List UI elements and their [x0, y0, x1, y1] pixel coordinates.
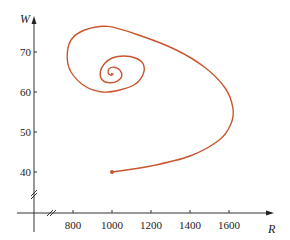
x-tick-label: 1400 [179, 219, 202, 231]
x-axis-arrow-icon [266, 211, 274, 216]
x-tick-label: 800 [65, 219, 82, 231]
y-tick-label: 50 [20, 126, 32, 138]
y-tick-label: 70 [20, 46, 32, 58]
x-tick-label: 1000 [101, 219, 124, 231]
y-tick-label: 40 [20, 166, 32, 178]
axes: 8001000120014001600 40506070 R W [17, 12, 276, 236]
y-axis-arrow-icon [32, 16, 37, 24]
trajectory-curve [67, 26, 233, 172]
x-axis-label: R [267, 222, 276, 236]
start-point-marker [110, 170, 114, 174]
chart-canvas: 8001000120014001600 40506070 R W [0, 0, 290, 240]
y-tick-label: 60 [20, 86, 32, 98]
x-tick-label: 1200 [140, 219, 163, 231]
x-tick-label: 1600 [218, 219, 241, 231]
y-axis-label: W [20, 12, 31, 26]
